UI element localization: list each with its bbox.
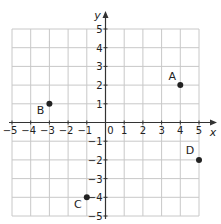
y-tick-label: −4 — [88, 192, 103, 203]
x-tick-label: −3 — [40, 125, 55, 136]
point-b — [46, 101, 52, 107]
x-tick-label: 5 — [196, 125, 202, 136]
x-tick-label: −2 — [59, 125, 74, 136]
y-axis-label: y — [93, 9, 101, 22]
y-tick-label: −5 — [88, 211, 103, 222]
point-d — [196, 157, 202, 163]
point-label-b: B — [37, 104, 45, 117]
x-tick-label: −5 — [3, 125, 18, 136]
y-tick-label: 5 — [96, 24, 102, 35]
point-label-d: D — [186, 144, 194, 157]
y-tick-label: 1 — [96, 99, 102, 110]
x-tick-label: 3 — [158, 125, 164, 136]
x-tick-label: 4 — [177, 125, 183, 136]
x-tick-label: −1 — [77, 125, 92, 136]
y-tick-label: −1 — [88, 136, 103, 147]
y-axis-arrow-icon — [103, 11, 109, 18]
x-axis-label: x — [209, 126, 217, 139]
coordinate-plane: xy−5−4−3−2−112345054321−1−2−3−4−5ABCD — [0, 0, 221, 224]
y-tick-label: −2 — [88, 155, 103, 166]
y-tick-label: −3 — [88, 174, 103, 185]
x-tick-label: 1 — [121, 125, 127, 136]
y-tick-label: 3 — [96, 61, 102, 72]
x-tick-label: 2 — [140, 125, 146, 136]
origin-label: 0 — [107, 125, 113, 136]
y-tick-label: 4 — [96, 43, 102, 54]
point-label-c: C — [74, 198, 82, 211]
point-label-a: A — [169, 70, 177, 83]
x-tick-label: −4 — [21, 125, 36, 136]
point-c — [84, 194, 90, 200]
point-a — [177, 82, 183, 88]
y-tick-label: 2 — [96, 80, 102, 91]
